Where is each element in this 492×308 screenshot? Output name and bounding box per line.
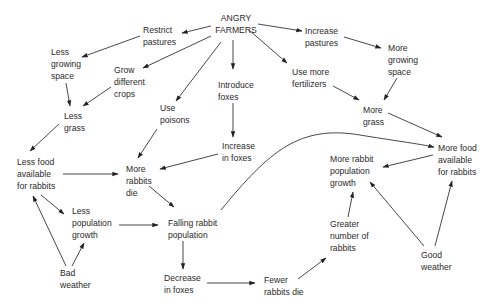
edge-farmers-poisons [176,42,221,101]
node-restrict-pastures: Restrict pastures [143,24,176,48]
node-grow-different-crops: Grow different crops [114,64,145,100]
node-less-grass: Less grass [64,110,85,134]
node-use-more-fertilizers: Use more fertilizers [292,66,329,90]
node-greater-number-of-rabbits: Greater number of rabbits [330,218,369,254]
node-increase-pastures: Increase pastures [305,25,338,49]
edge-farmers-increase [258,24,302,31]
node-less-food-available: Less food available for rabbits [17,156,55,192]
node-more-rabbit-population-growth: More rabbit population growth [330,153,373,189]
node-less-growing-space: Less growing space [51,46,81,82]
node-introduce-foxes: Introduce foxes [218,79,254,103]
edge-morefood-moregrowth [383,155,433,167]
node-fewer-rabbits-die: Fewer rabbits die [264,274,304,298]
node-less-population-growth: Less population growth [72,205,112,241]
edge-lessspace-lessgrass [66,83,70,106]
edge-bad-lesspop [72,243,84,266]
edge-good-moregrowth [370,182,424,246]
edge-restrict-lessspace [82,36,140,57]
node-more-growing-space: More growing space [388,42,418,78]
edge-lessgrass-lessfood [30,124,59,151]
node-more-rabbits-die: More rabbits die [126,163,152,199]
edge-grow-lessgrass [83,87,111,106]
node-more-food-available: More food available for rabbits [438,142,477,178]
edge-farmers-restrict [182,26,211,33]
edge-fertilizers-moregrass [333,86,359,100]
edge-greater-moregrowth [348,192,353,217]
edge-increase-morespace [344,37,381,48]
edge-lessfood-lesspop [41,195,64,214]
node-good-weather: Good weather [421,249,452,273]
node-decrease-in-foxes: Decrease in foxes [164,272,201,296]
edge-bad-lessfood [33,196,66,266]
node-angry-farmers: ANGRY FARMERS [210,12,262,36]
node-bad-weather: Bad weather [60,267,91,291]
edge-moregrass-morefood [388,113,442,137]
node-falling-rabbit-population: Falling rabbit population [168,217,217,241]
edge-poisons-moredie [138,129,157,158]
node-more-grass: More grass [363,104,384,128]
edge-good-morefood [435,181,452,246]
node-increase-in-foxes: Increase in foxes [222,140,255,164]
edge-increasefoxes-moredie [160,154,218,169]
edge-moredie-falling [149,186,174,207]
edge-morespace-moregrass [384,78,397,100]
node-use-poisons: Use poisons [160,102,190,126]
